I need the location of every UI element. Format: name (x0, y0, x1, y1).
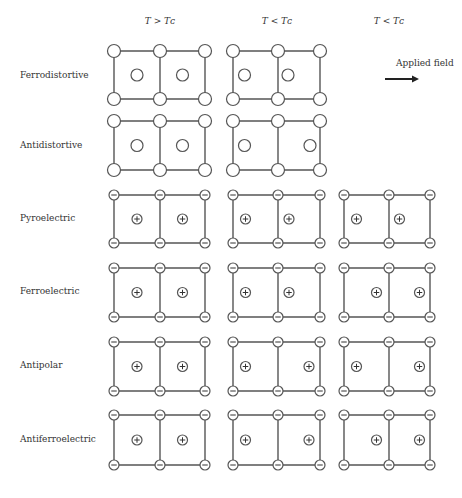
lattice-cell (228, 263, 325, 322)
lattice-cell (339, 190, 435, 248)
lattice-cell (109, 337, 210, 396)
lattice-cell (228, 410, 325, 470)
lattice-cell (228, 337, 325, 396)
lattice-cell (109, 190, 210, 248)
applied-field-arrow-icon (385, 76, 419, 83)
lattice-cell (108, 45, 212, 106)
lattice-cell (339, 337, 435, 396)
lattice-cell (339, 263, 435, 322)
lattice-cell (227, 45, 327, 106)
lattice-cell (109, 263, 210, 322)
lattice-cell (339, 410, 435, 470)
lattice-cell (227, 115, 327, 177)
lattice-cell (108, 115, 212, 177)
lattice-diagram (0, 0, 462, 498)
lattice-cell (109, 410, 210, 470)
lattice-cell (228, 190, 325, 248)
